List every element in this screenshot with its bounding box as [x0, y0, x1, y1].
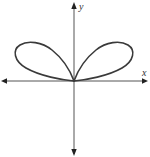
x-axis-right-arrow-icon — [142, 78, 148, 83]
y-axis-label: y — [79, 2, 83, 12]
x-axis-label: x — [142, 68, 146, 78]
left-petal — [15, 42, 74, 81]
polar-graph — [0, 0, 150, 157]
y-axis-top-arrow-icon — [71, 2, 76, 9]
y-axis-bottom-arrow-icon — [71, 149, 76, 156]
right-petal — [74, 42, 133, 81]
x-axis-left-arrow-icon — [1, 78, 7, 83]
